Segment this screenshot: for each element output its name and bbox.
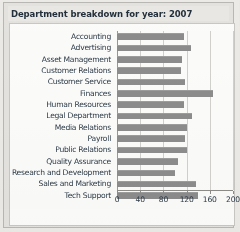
x-tick-label: 160: [203, 195, 217, 204]
screenshot-root: Department breakdown for year: 2007 Acco…: [0, 0, 239, 232]
page-title: Department breakdown for year: 2007: [8, 9, 192, 19]
bar-row: [117, 76, 233, 87]
bar: [117, 124, 187, 131]
bar-row: [117, 54, 233, 65]
x-tick-label: 200: [226, 195, 239, 204]
category-label: Sales and Marketing: [10, 178, 114, 189]
category-label: Customer Service: [10, 76, 114, 87]
bar-row: [117, 156, 233, 167]
bar: [117, 45, 191, 52]
x-tick: [233, 191, 234, 194]
category-label: Accounting: [10, 31, 114, 42]
bar-row: [117, 167, 233, 178]
bar: [117, 147, 187, 154]
gridline: [233, 31, 234, 190]
bar: [117, 158, 178, 165]
bar-row: [117, 99, 233, 110]
x-tick: [140, 191, 141, 194]
bar: [117, 170, 175, 177]
chart-card: Department breakdown for year: 2007 Acco…: [3, 2, 234, 228]
category-label: Finances: [10, 88, 114, 99]
x-tick-label: 120: [180, 195, 194, 204]
category-label: Human Resources: [10, 99, 114, 110]
x-axis-tick-labels: 04080120160200: [117, 195, 233, 207]
bar: [117, 67, 181, 74]
x-tick: [163, 191, 164, 194]
bar: [117, 79, 185, 86]
bar-row: [117, 178, 233, 189]
bar-row: [117, 110, 233, 121]
category-axis-labels: AccountingAdvertisingAsset ManagementCus…: [10, 31, 114, 201]
bar-row: [117, 65, 233, 76]
bar: [117, 181, 196, 188]
x-tick-label: 80: [159, 195, 168, 204]
bar-row: [117, 122, 233, 133]
bar: [117, 135, 185, 142]
x-tick-label: 40: [136, 195, 145, 204]
bar-series: [117, 31, 233, 190]
category-label: Research and Development: [10, 167, 114, 178]
bar: [117, 90, 213, 97]
category-label: Legal Department: [10, 110, 114, 121]
bar-row: [117, 144, 233, 155]
bar: [117, 33, 184, 40]
bar: [117, 101, 184, 108]
bar: [117, 56, 182, 63]
bar-row: [117, 133, 233, 144]
plot-wrapper: AccountingAdvertisingAsset ManagementCus…: [10, 24, 236, 227]
category-label: Tech Support: [10, 190, 114, 201]
bar-row: [117, 88, 233, 99]
category-label: Media Relations: [10, 122, 114, 133]
chart-panel: AccountingAdvertisingAsset ManagementCus…: [9, 23, 235, 226]
category-label: Payroll: [10, 133, 114, 144]
category-label: Asset Management: [10, 54, 114, 65]
x-tick: [210, 191, 211, 194]
bar: [117, 113, 192, 120]
category-label: Advertising: [10, 42, 114, 53]
category-label: Public Relations: [10, 144, 114, 155]
chart-title-bar: Department breakdown for year: 2007: [8, 6, 229, 21]
x-tick: [187, 191, 188, 194]
x-tick: [117, 191, 118, 194]
bar-row: [117, 31, 233, 42]
bar-row: [117, 42, 233, 53]
x-tick-label: 0: [115, 195, 120, 204]
category-label: Customer Relations: [10, 65, 114, 76]
plot-area: [117, 31, 233, 190]
category-label: Quality Assurance: [10, 156, 114, 167]
